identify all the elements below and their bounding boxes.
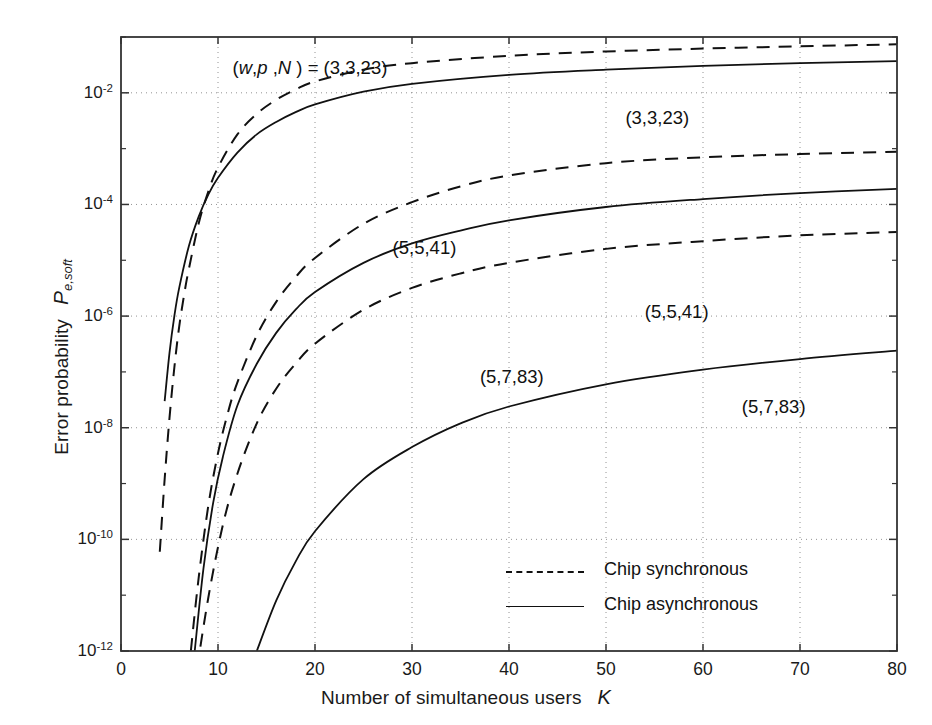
xtick-label: 20 — [293, 659, 337, 680]
annotation-label-55-41-async: (5,5,41) — [645, 301, 709, 323]
figure-container: 10-2 10-4 10-6 10-8 10-10 10-12 01020304… — [0, 0, 932, 725]
y-axis-title-text: Error probability — [51, 319, 72, 455]
x-axis-title-symbol: K — [598, 686, 611, 708]
y-axis-title: Error probabilityPe,soft — [49, 57, 75, 657]
xtick-label: 60 — [681, 659, 725, 680]
xtick-label: 10 — [196, 659, 240, 680]
x-axis-title-text: Number of simultaneous users — [321, 687, 581, 708]
chart-plot-area — [0, 0, 932, 725]
xtick-label: 50 — [584, 659, 628, 680]
x-axis-title: Number of simultaneous usersK — [0, 686, 932, 709]
legend-dashed-line-swatch — [506, 571, 584, 573]
legend-label: Chip asynchronous — [604, 594, 758, 615]
xtick-label: 40 — [487, 659, 531, 680]
xtick-label: 80 — [875, 659, 919, 680]
xtick-label: 0 — [99, 659, 143, 680]
legend-entry-chip-synchronous: Chip synchronous — [506, 556, 756, 591]
legend-solid-line-swatch — [506, 606, 584, 607]
annotation-label-57-83-sync: (5,7,83) — [480, 366, 544, 388]
y-axis-title-symbol: P — [49, 291, 72, 305]
annotation-label-55-41-sync: (5,5,41) — [393, 237, 457, 259]
y-axis-title-subscript: e,soft — [60, 259, 75, 291]
series-line-0 — [160, 44, 897, 551]
legend-entry-chip-asynchronous: Chip asynchronous — [506, 591, 756, 626]
xtick-label: 30 — [390, 659, 434, 680]
legend: Chip synchronous Chip asynchronous — [506, 556, 756, 626]
annotation-label-57-83-async: (5,7,83) — [742, 396, 806, 418]
xtick-label: 70 — [778, 659, 822, 680]
series-line-1 — [165, 61, 897, 401]
annotation-param-title: (w,p ,N ) = (3,3,23) — [233, 57, 388, 79]
legend-label: Chip synchronous — [604, 559, 748, 580]
annotation-label-33-23-async: (3,3,23) — [625, 107, 689, 129]
